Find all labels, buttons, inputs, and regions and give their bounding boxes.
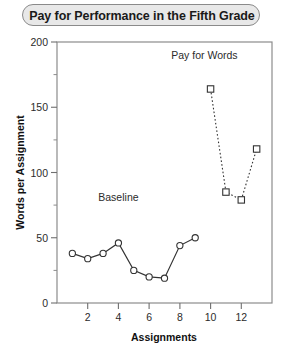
series-line — [211, 89, 257, 200]
x-axis-ticks — [88, 303, 242, 309]
y-axis-tick-labels: 200 150 100 50 0 — [30, 36, 48, 309]
plot-frame — [57, 42, 272, 303]
data-point — [161, 275, 167, 281]
chart-annotation: Baseline — [98, 191, 138, 203]
y-tick-label: 0 — [42, 297, 48, 309]
data-point — [177, 242, 183, 248]
x-tick-label: 4 — [115, 311, 121, 323]
data-point — [69, 250, 75, 256]
data-point — [131, 267, 137, 273]
data-point — [238, 197, 244, 203]
y-axis-title: Words per Assignment — [14, 115, 26, 230]
x-tick-label: 6 — [146, 311, 152, 323]
chart-plot-area: 200 150 100 50 0 Words per Assignment 2 … — [0, 0, 285, 353]
chart-annotation: Pay for Words — [171, 49, 237, 61]
data-point — [207, 86, 213, 92]
y-tick-label: 200 — [30, 36, 48, 48]
data-point — [146, 274, 152, 280]
x-tick-label: 10 — [205, 311, 217, 323]
y-axis-major-ticks — [51, 42, 57, 303]
annotation-layer: BaselinePay for Words — [98, 49, 237, 203]
y-tick-label: 50 — [36, 232, 48, 244]
data-point — [253, 146, 259, 152]
chart-figure: Pay for Performance in the Fifth Grade 2… — [0, 0, 285, 353]
x-tick-label: 12 — [235, 311, 247, 323]
series-pay-for-words — [207, 86, 259, 203]
series-baseline — [69, 235, 198, 282]
data-point — [115, 240, 121, 246]
x-axis-tick-labels: 2 4 6 8 10 12 — [85, 311, 248, 323]
x-tick-label: 8 — [177, 311, 183, 323]
data-series-layer — [69, 86, 260, 282]
data-point — [85, 256, 91, 262]
x-axis-title: Assignments — [131, 331, 197, 343]
data-point — [100, 250, 106, 256]
y-tick-label: 150 — [30, 101, 48, 113]
data-point — [223, 189, 229, 195]
y-tick-label: 100 — [30, 167, 48, 179]
data-point — [192, 235, 198, 241]
x-tick-label: 2 — [85, 311, 91, 323]
